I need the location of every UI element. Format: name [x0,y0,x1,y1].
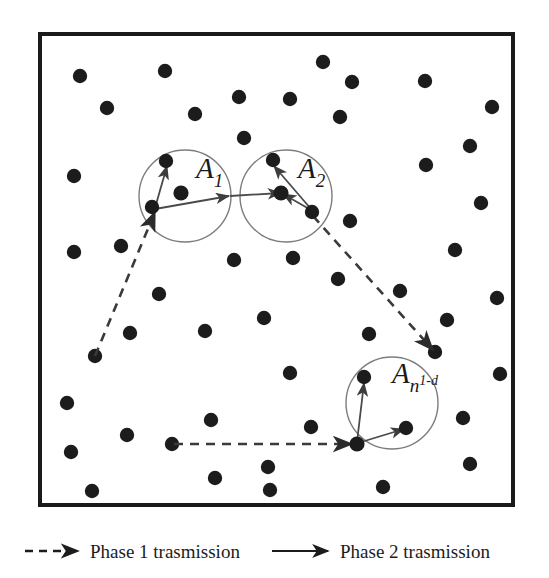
node-dot [440,313,454,327]
node-dot [490,291,504,305]
node-dot [123,326,137,340]
node-dot [286,251,300,265]
phase2-a1-hub [155,196,229,209]
node-dot [343,214,357,228]
node-dot [227,253,241,267]
node-dot [73,69,87,83]
cluster-a1-label: A1 [194,152,223,191]
node-dot [120,428,134,442]
node-dot [261,460,275,474]
node-dot [283,366,297,380]
node-dot [418,74,432,88]
node-dot [257,311,271,325]
cluster-transmission-diagram: A1A2An1-d Phase 1 trasmission Phase 2 tr… [0,0,549,578]
cluster-a2-member-node [266,153,280,167]
node-dot [67,245,81,259]
phase2-links-layer [155,166,404,443]
legend-phase1-label: Phase 1 trasmission [90,541,240,562]
phase1-links-layer [95,212,433,444]
cluster-a2-hub-node [273,185,288,200]
node-dot [208,471,222,485]
node-dot [64,445,78,459]
node-dot [67,169,81,183]
cluster-a1-member-node [159,154,173,168]
phase2-a1-to-a2 [230,193,281,196]
cluster-a1-member-node [145,200,159,214]
node-dot [188,107,202,121]
legend: Phase 1 trasmission Phase 2 trasmission [25,541,490,562]
node-dot [362,327,376,341]
node-dot [448,243,462,257]
node-dot [316,55,330,69]
node-dot [237,131,251,145]
node-dot [198,324,212,338]
node-dot [331,272,345,286]
figure-root: A1A2An1-d Phase 1 trasmission Phase 2 tr… [0,0,549,578]
node-dot [463,139,477,153]
node-dot [456,411,470,425]
node-dot [263,483,277,497]
cluster-a2-label: A2 [296,152,326,191]
node-dot [152,287,166,301]
legend-phase2-label: Phase 2 trasmission [340,541,490,562]
node-dot [428,345,442,359]
node-dot [485,100,499,114]
node-dot [463,457,477,471]
node-dot [60,396,74,410]
phase2-an-right [358,429,404,443]
node-dot [85,484,99,498]
node-dot [304,420,318,434]
cluster-a2-member-node [305,205,319,219]
node-dot [100,101,114,115]
node-dot [114,239,128,253]
phase2-an-up [357,383,364,442]
node-dot [283,92,297,106]
node-dot [474,196,488,210]
node-dot [232,90,246,104]
node-dot [158,64,172,78]
cluster-an1d-hub-node [349,436,364,451]
cluster-node-dots-layer [145,153,413,452]
node-dot [333,110,347,124]
node-dot [204,413,218,427]
node-dot [419,158,433,172]
node-dot [393,284,407,298]
node-dot [493,367,507,381]
node-dot [376,480,390,494]
cluster-an1d-member-node [399,421,413,435]
cluster-an1d-member-node [357,370,371,384]
cluster-a1-hub-node [173,185,188,200]
node-dot [345,75,359,89]
